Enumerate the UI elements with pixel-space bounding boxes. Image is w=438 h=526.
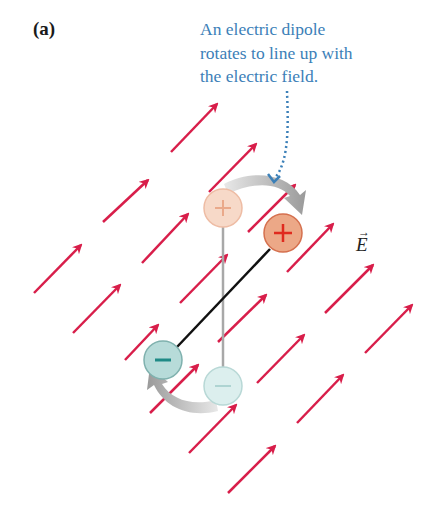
field-arrow-icon xyxy=(34,245,81,293)
panel-label: (a) xyxy=(33,18,55,40)
caption-line: rotates to line up with xyxy=(200,42,353,66)
field-arrow-icon xyxy=(103,180,148,222)
vector-arrow-icon: → xyxy=(358,225,370,240)
field-arrow-icon xyxy=(297,375,343,423)
field-arrow-icon xyxy=(73,285,120,333)
field-arrow-icon xyxy=(142,214,188,263)
caption-line: the electric field. xyxy=(200,65,353,89)
caption: An electric dipole rotates to line up wi… xyxy=(200,18,353,89)
electric-field-label: → E xyxy=(356,234,368,256)
caption-line: An electric dipole xyxy=(200,18,353,42)
field-arrow-icon xyxy=(257,335,304,383)
dipole-diagram: (a) An electric dipole rotates to line u… xyxy=(0,0,438,526)
field-arrow-icon xyxy=(218,295,266,342)
field-arrow-icon xyxy=(228,446,275,493)
field-arrow-icon xyxy=(325,265,373,313)
field-arrow-icon xyxy=(171,104,217,152)
field-arrow-icon xyxy=(365,305,412,353)
field-arrow-icon xyxy=(180,255,227,303)
annotation-pointer-icon xyxy=(275,91,288,178)
